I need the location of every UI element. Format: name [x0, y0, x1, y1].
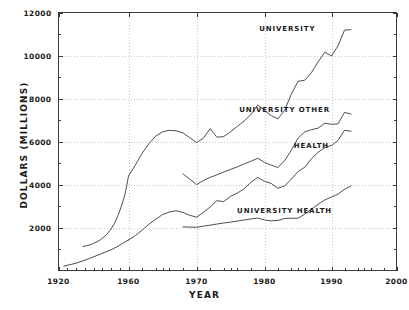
y-tick-label: 10000	[23, 52, 51, 61]
x-tick-label: 1960	[117, 277, 139, 286]
series-label-health: HEALTH	[294, 142, 329, 150]
series-line-early-baseline	[64, 240, 129, 266]
series-label-university-other: UNIVERSITY OTHER	[239, 106, 330, 114]
y-tick-label: 8000	[29, 95, 51, 104]
y-axis-title: DOLLARS (MILLIONS)	[19, 80, 29, 210]
x-tick-label: 1970	[185, 277, 207, 286]
x-tick-label: 1980	[253, 277, 275, 286]
x-tick-label: 2000	[385, 277, 407, 286]
y-tick-label: 12000	[23, 9, 51, 18]
series-label-university-health: UNIVERSITY HEALTH	[237, 207, 332, 215]
y-tick-label: 6000	[29, 138, 51, 147]
x-tick-label: 1920	[47, 277, 69, 286]
y-tick-label: 2000	[29, 224, 51, 233]
tick-labels: 2000400060008000100001200019201960197019…	[23, 9, 407, 286]
line-chart-canvas: 2000400060008000100001200019201960197019…	[0, 0, 409, 310]
chart-figure: 2000400060008000100001200019201960197019…	[0, 0, 409, 310]
y-tick-label: 4000	[29, 181, 51, 190]
x-tick-label: 1990	[320, 277, 342, 286]
x-axis-title: YEAR	[0, 290, 409, 300]
series-label-university: UNIVERSITY	[259, 25, 315, 33]
